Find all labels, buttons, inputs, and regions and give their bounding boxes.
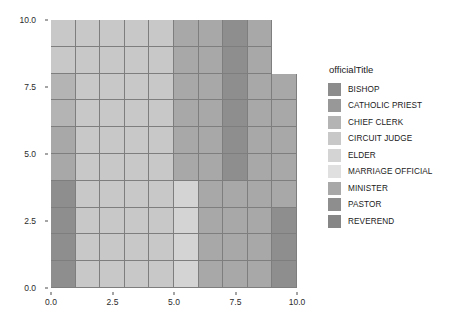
tile [174, 100, 199, 127]
tile [100, 234, 125, 261]
legend-item[interactable]: BISHOP [328, 81, 454, 98]
tile [248, 100, 273, 127]
legend-item[interactable]: CHIEF CLERK [328, 114, 454, 131]
legend-item-label: CHIEF CLERK [348, 118, 403, 127]
tile [149, 127, 174, 154]
tile [272, 47, 297, 74]
tile [272, 154, 297, 181]
tile [51, 208, 76, 235]
legend-swatch [328, 132, 341, 145]
tile [223, 74, 248, 101]
tile [100, 208, 125, 235]
x-tick-mark [297, 292, 298, 295]
tile [199, 20, 224, 47]
tile [100, 181, 125, 208]
tile [223, 20, 248, 47]
tile [100, 74, 125, 101]
legend-item[interactable]: MINISTER [328, 180, 454, 197]
y-tick-mark [45, 87, 48, 88]
tile [248, 47, 273, 74]
tile [76, 234, 101, 261]
tile [149, 154, 174, 181]
tile [76, 208, 101, 235]
tile [272, 261, 297, 288]
y-tick-label: 0.0 [24, 283, 36, 293]
legend-item-label: REVEREND [348, 217, 394, 226]
tile [174, 127, 199, 154]
tile [76, 127, 101, 154]
legend-item[interactable]: MARRIAGE OFFICIAL [328, 164, 454, 181]
tile [125, 47, 150, 74]
tile [223, 100, 248, 127]
y-axis: 0.02.55.07.510.0 [0, 0, 48, 328]
x-tick-mark [112, 292, 113, 295]
legend-title: officialTitle [329, 64, 454, 75]
x-tick-label: 10.0 [289, 297, 306, 307]
legend-item[interactable]: CIRCUIT JUDGE [328, 131, 454, 148]
y-tick-label: 10.0 [19, 15, 36, 25]
tile [223, 154, 248, 181]
tile [100, 47, 125, 74]
legend-swatch [328, 182, 341, 195]
legend-item-label: CIRCUIT JUDGE [348, 134, 412, 143]
tile-grid [51, 20, 297, 288]
tile [223, 47, 248, 74]
tile [272, 127, 297, 154]
tile [76, 74, 101, 101]
tile [223, 234, 248, 261]
tile [125, 100, 150, 127]
tile [149, 208, 174, 235]
tile [51, 74, 76, 101]
tile [199, 234, 224, 261]
legend-item[interactable]: CATHOLIC PRIEST [328, 98, 454, 115]
tile [51, 20, 76, 47]
legend-item[interactable]: REVEREND [328, 213, 454, 230]
x-tick-label: 2.5 [107, 297, 119, 307]
tile [149, 20, 174, 47]
tile [223, 208, 248, 235]
x-tick-mark [51, 292, 52, 295]
tile [199, 261, 224, 288]
tile [272, 20, 297, 47]
tile [248, 154, 273, 181]
legend-swatch [328, 149, 341, 162]
chart-root: 0.02.55.07.510.0 0.02.55.07.510.0 offici… [0, 0, 456, 328]
tile [174, 208, 199, 235]
legend-item[interactable]: PASTOR [328, 197, 454, 214]
tile [100, 100, 125, 127]
tile [76, 47, 101, 74]
y-tick-label: 5.0 [24, 149, 36, 159]
tile [199, 100, 224, 127]
tile [223, 127, 248, 154]
tile [125, 234, 150, 261]
tile [149, 47, 174, 74]
tile [125, 261, 150, 288]
tile [199, 127, 224, 154]
tile [199, 47, 224, 74]
legend-item-label: BISHOP [348, 85, 380, 94]
legend: officialTitle BISHOPCATHOLIC PRIESTCHIEF… [328, 64, 454, 230]
tile [174, 154, 199, 181]
tile [199, 74, 224, 101]
tile [149, 234, 174, 261]
tile [100, 20, 125, 47]
legend-item[interactable]: ELDER [328, 147, 454, 164]
tile [174, 74, 199, 101]
tile [125, 181, 150, 208]
tile [76, 20, 101, 47]
tile [51, 154, 76, 181]
legend-swatch [328, 99, 341, 112]
tile [248, 234, 273, 261]
x-tick-label: 7.5 [230, 297, 242, 307]
tile [100, 127, 125, 154]
tile [76, 181, 101, 208]
legend-item-list: BISHOPCATHOLIC PRIESTCHIEF CLERKCIRCUIT … [328, 81, 454, 230]
tile [248, 208, 273, 235]
legend-swatch [328, 198, 341, 211]
tile [125, 74, 150, 101]
y-tick-label: 7.5 [24, 82, 36, 92]
x-tick-mark [235, 292, 236, 295]
legend-swatch [328, 83, 341, 96]
tile [223, 261, 248, 288]
tile [199, 154, 224, 181]
